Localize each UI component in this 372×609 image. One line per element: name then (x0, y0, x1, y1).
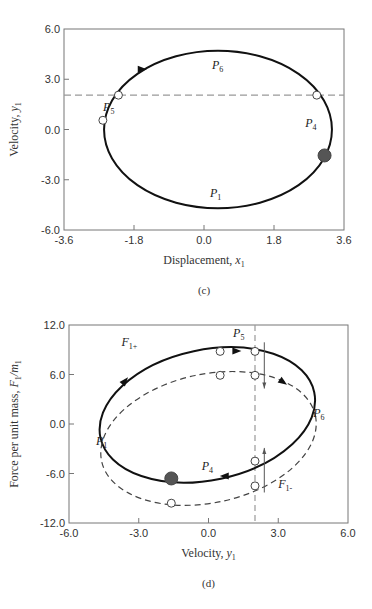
open-state-point (216, 371, 224, 379)
y-tick-label: 3.0 (45, 73, 60, 85)
y-tick-label: -3.0 (41, 174, 60, 186)
phase-plot-c: -3.6-1.80.01.83.66.03.00.0-3.0-6.0P6P5P4… (0, 0, 372, 300)
y-axis-label: Force per unit mass, F1/m1 (7, 360, 23, 488)
filled-state-point (318, 149, 331, 162)
open-state-point (114, 91, 122, 99)
open-state-point (251, 371, 259, 379)
x-axis-label: Velocity, y1 (181, 546, 236, 562)
point-label: P6 (312, 406, 324, 422)
y-tick-label: 6.0 (50, 369, 65, 381)
x-axis-label: Displacement, x1 (163, 253, 244, 269)
filled-state-point (165, 472, 178, 485)
direction-arrow-icon (278, 377, 289, 388)
direction-arrow-icon (232, 347, 241, 354)
open-state-point (99, 116, 107, 124)
y-tick-label: -6.0 (41, 224, 60, 236)
y-tick-label: 6.0 (45, 23, 60, 35)
y-axis-label: Velocity, y1 (7, 102, 23, 157)
point-label: F1+ (121, 335, 138, 351)
open-state-point (251, 457, 259, 465)
x-tick-label: 3.6 (336, 234, 351, 246)
open-state-point (251, 347, 259, 355)
chart-d-canvas: -6.0-3.00.03.06.012.06.00.0-6.0-12.0F1+P… (0, 300, 372, 609)
figure-caption: (d) (202, 577, 215, 590)
x-tick-label: -3.0 (129, 527, 148, 539)
point-label: P4 (201, 459, 213, 475)
figure-caption: (c) (198, 284, 211, 297)
point-label: P5 (102, 100, 114, 116)
y-tick-label: 12.0 (44, 319, 65, 331)
y-tick-label: -6.0 (46, 468, 65, 480)
plot-frame (64, 29, 344, 230)
x-tick-label: -1.8 (125, 234, 144, 246)
jump-arrow-icon (262, 383, 266, 389)
x-tick-label: 0.0 (196, 234, 211, 246)
jump-arrow-icon (262, 448, 266, 454)
force-velocity-plot-d: -6.0-3.00.03.06.012.06.00.0-6.0-12.0F1+P… (0, 300, 372, 609)
plot-frame (69, 325, 348, 523)
point-label: F1- (277, 477, 292, 493)
point-label: P1 (95, 434, 107, 450)
x-tick-label: 6.0 (340, 527, 355, 539)
open-state-point (251, 482, 259, 490)
point-label: P4 (304, 116, 316, 132)
x-tick-label: 1.8 (266, 234, 281, 246)
y-tick-label: -12.0 (40, 517, 65, 529)
open-state-point (167, 499, 175, 507)
solid-trajectory (104, 51, 332, 208)
y-tick-label: 0.0 (45, 124, 60, 136)
open-state-point (313, 91, 321, 99)
x-tick-label: 0.0 (201, 527, 216, 539)
dashed-trajectory (88, 353, 329, 524)
solid-trajectory (87, 328, 328, 501)
y-tick-label: 0.0 (50, 418, 65, 430)
point-label: P1 (209, 186, 221, 202)
point-label: P5 (232, 326, 244, 342)
open-state-point (216, 347, 224, 355)
x-tick-label: 3.0 (271, 527, 286, 539)
chart-c-canvas: -3.6-1.80.01.83.66.03.00.0-3.0-6.0P6P5P4… (0, 0, 372, 300)
point-label: P6 (211, 58, 223, 74)
